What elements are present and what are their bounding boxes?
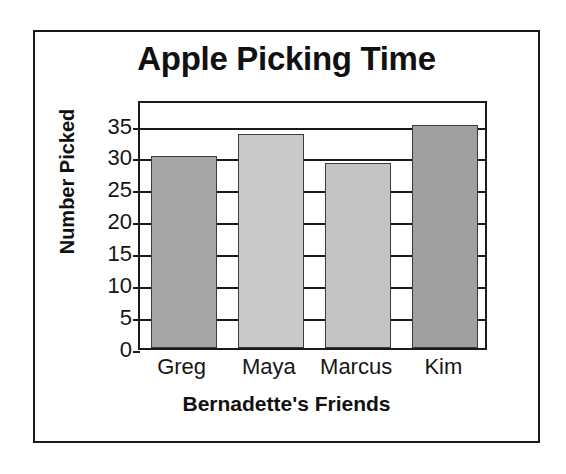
y-tickmark-10 — [133, 287, 140, 289]
y-tick-label: 15 — [108, 243, 132, 265]
y-axis-title: Number Picked — [56, 102, 79, 262]
y-tick-label: 20 — [108, 211, 132, 233]
bar-marcus — [325, 163, 391, 348]
y-tick-label: 30 — [108, 147, 132, 169]
x-tick-label-maya: Maya — [242, 354, 296, 380]
x-axis-title: Bernadette's Friends — [33, 392, 540, 416]
y-axis-tick-labels: 05101520253035 — [92, 101, 136, 350]
x-axis-tick-labels: GregMayaMarcusKim — [138, 354, 487, 384]
y-tick-label: 35 — [108, 116, 132, 138]
y-tickmark-5 — [133, 319, 140, 321]
bar-maya — [238, 134, 304, 348]
chart-title: Apple Picking Time — [33, 40, 540, 78]
y-tickmark-35 — [133, 128, 140, 130]
y-tick-label: 10 — [108, 275, 132, 297]
bars-layer — [140, 103, 485, 348]
x-tick-label-marcus: Marcus — [320, 354, 392, 380]
y-tick-label: 5 — [120, 307, 132, 329]
y-tickmark-20 — [133, 223, 140, 225]
x-tick-label-kim: Kim — [424, 354, 462, 380]
chart-page: Apple Picking Time Number Picked 0510152… — [0, 0, 566, 474]
y-tickmark-30 — [133, 159, 140, 161]
y-tick-label: 25 — [108, 179, 132, 201]
bar-kim — [412, 125, 478, 348]
y-tickmark-25 — [133, 191, 140, 193]
x-tick-label-greg: Greg — [157, 354, 206, 380]
bar-greg — [151, 156, 217, 348]
y-tick-label: 0 — [120, 339, 132, 361]
plot-area — [138, 101, 487, 350]
y-tickmark-15 — [133, 255, 140, 257]
y-tickmark-0 — [133, 351, 140, 353]
